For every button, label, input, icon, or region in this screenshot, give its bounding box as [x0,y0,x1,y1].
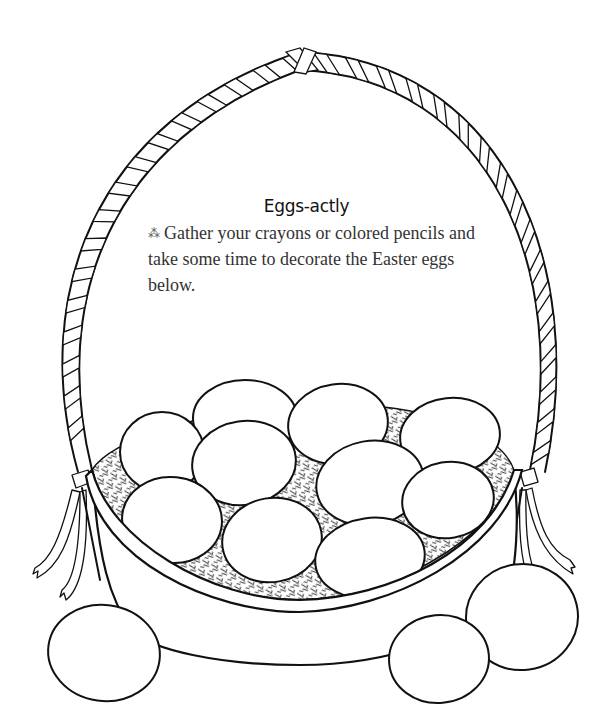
handle-wrap [496,163,507,199]
handle-wrap [64,386,80,409]
handle-wrap [539,313,554,344]
handle-wrap [68,416,84,441]
sparkle-bullet-icon: ⁂ [148,226,160,240]
handle-wrap [434,94,447,127]
handle-wrap [62,355,79,377]
handle-wrap [541,344,557,374]
handle-wrap [376,66,396,94]
instruction-body: Gather your crayons or colored pencils a… [148,223,475,295]
handle-wrap [539,377,556,405]
handle-wrap [197,94,227,111]
handle-wrap [536,281,551,314]
handle-wrap [459,114,468,148]
easter-basket-illustration [0,0,613,708]
handle-wrap [345,57,368,82]
handle-wrap [171,113,201,130]
handle-wrap [108,182,137,196]
handle-wrap [480,137,490,172]
handle-wrap [148,134,178,150]
handle-wrap [127,157,157,172]
handle-wrap [521,219,535,254]
handle-wrap [63,325,82,345]
instruction-text: ⁂Gather your crayons or colored pencils … [148,220,478,298]
handle-wrap [530,250,544,284]
page-title: Eggs-actly [0,196,613,216]
